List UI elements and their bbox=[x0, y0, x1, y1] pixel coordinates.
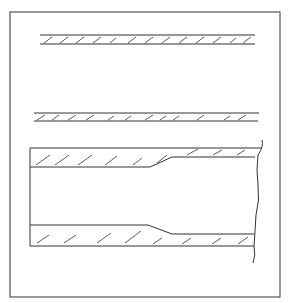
thin-wall-section-1 bbox=[40, 35, 255, 44]
frame-border bbox=[10, 12, 280, 297]
break-line bbox=[253, 140, 263, 263]
pipe-section-with-taper bbox=[30, 140, 263, 263]
hatching bbox=[36, 149, 248, 244]
hatching bbox=[44, 37, 251, 43]
thin-wall-section-2 bbox=[34, 113, 259, 121]
diagram-canvas bbox=[0, 0, 295, 303]
hatching bbox=[37, 115, 246, 120]
